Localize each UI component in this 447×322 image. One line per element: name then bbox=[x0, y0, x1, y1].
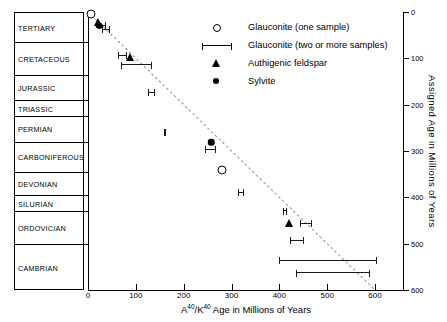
period-row: SILURIAN bbox=[15, 196, 83, 212]
period-label: CRETACEOUS bbox=[18, 55, 70, 64]
left-axis-tick bbox=[82, 211, 88, 212]
period-row: ORDOVICIAN bbox=[15, 212, 83, 244]
period-row: JURASSIC bbox=[15, 76, 83, 101]
left-axis-tick bbox=[82, 100, 88, 101]
left-axis-tick bbox=[82, 195, 88, 196]
legend-label: Glauconite (one sample) bbox=[248, 22, 349, 32]
x-axis-title: A40/K40 Age in Millions of Years bbox=[88, 303, 404, 315]
legend-label: Sylvite bbox=[248, 76, 275, 86]
period-row: TRIASSIC bbox=[15, 101, 83, 117]
y-axis-title-text: Assigned Age in Millions of Years bbox=[427, 75, 438, 228]
right-axis-tick bbox=[403, 105, 409, 106]
period-label: DEVONIAN bbox=[18, 179, 58, 188]
period-label: TERTIARY bbox=[18, 23, 55, 32]
x-axis-tick bbox=[375, 284, 376, 290]
data-point-errorbar bbox=[148, 92, 155, 93]
x-axis-tick-label: 300 bbox=[225, 291, 238, 300]
period-row: TERTIARY bbox=[15, 13, 83, 43]
right-axis-tick bbox=[403, 290, 409, 291]
x-axis-tick bbox=[184, 284, 185, 290]
legend-label: Glauconite (two or more samples) bbox=[248, 40, 388, 50]
y-axis-title: Assigned Age in Millions of Years bbox=[425, 12, 439, 290]
data-point-errorbar bbox=[205, 149, 216, 150]
x-axis-tick bbox=[279, 284, 280, 290]
x-axis-tick bbox=[327, 284, 328, 290]
right-axis-tick-label: 500 bbox=[411, 239, 424, 248]
period-label: TRIASSIC bbox=[18, 104, 53, 113]
period-row: CAMBRIAN bbox=[15, 245, 83, 291]
x-axis-tick-label: 400 bbox=[273, 291, 286, 300]
right-axis-tick-label: 100 bbox=[411, 54, 424, 63]
left-axis-tick bbox=[82, 75, 88, 76]
right-axis-tick bbox=[403, 197, 409, 198]
right-axis-tick-label: 0 bbox=[411, 8, 415, 17]
data-point-filled-triangle bbox=[126, 53, 134, 61]
x-axis-tick-label: 200 bbox=[177, 291, 190, 300]
right-axis-tick bbox=[403, 151, 409, 152]
right-axis-tick bbox=[403, 244, 409, 245]
data-point-open-circle bbox=[87, 9, 96, 18]
right-axis-tick bbox=[403, 12, 409, 13]
left-axis-tick bbox=[82, 244, 88, 245]
x-axis-tick-label: 100 bbox=[129, 291, 142, 300]
period-label: CARBONIFEROUS bbox=[18, 153, 84, 162]
data-point-errorbar bbox=[279, 260, 377, 261]
data-point-errorbar bbox=[296, 272, 370, 273]
data-point-errorbar bbox=[102, 29, 109, 30]
right-axis-tick bbox=[403, 58, 409, 59]
x-axis-tick bbox=[88, 284, 89, 290]
right-axis-tick-label: 400 bbox=[411, 193, 424, 202]
x-axis-tick-label: 600 bbox=[368, 291, 381, 300]
right-axis-tick-label: 600 bbox=[411, 286, 424, 295]
data-point-filled-triangle bbox=[285, 219, 293, 227]
data-point-errorbar bbox=[238, 192, 245, 193]
data-point-errorbar bbox=[164, 132, 167, 133]
right-axis-tick-label: 200 bbox=[411, 100, 424, 109]
plot-area bbox=[88, 12, 375, 290]
period-row: PERMIAN bbox=[15, 117, 83, 142]
data-point-open-circle bbox=[217, 165, 226, 174]
period-label: SILURIAN bbox=[18, 199, 53, 208]
right-axis-tick-label: 300 bbox=[411, 147, 424, 156]
data-point-errorbar bbox=[290, 240, 304, 241]
x-title-text: Age in Millions of Years bbox=[213, 304, 311, 315]
left-axis-tick bbox=[82, 116, 88, 117]
geologic-period-column: TERTIARYCRETACEOUSJURASSICTRIASSICPERMIA… bbox=[14, 12, 84, 290]
x-axis-tick bbox=[136, 284, 137, 290]
data-point-filled-circle bbox=[208, 139, 215, 146]
chart-figure: TERTIARYCRETACEOUSJURASSICTRIASSICPERMIA… bbox=[0, 0, 447, 322]
period-row: CARBONIFEROUS bbox=[15, 143, 83, 173]
x-title-isotope-k-mass: 40 bbox=[203, 303, 210, 310]
x-title-isotope-a-mass: 40 bbox=[187, 303, 194, 310]
left-axis-tick bbox=[82, 42, 88, 43]
data-point-errorbar bbox=[300, 223, 312, 224]
data-point-filled-circle bbox=[96, 23, 103, 30]
period-row: DEVONIAN bbox=[15, 173, 83, 196]
x-axis-tick bbox=[232, 284, 233, 290]
x-axis-tick-label: 500 bbox=[320, 291, 333, 300]
legend-label: Authigenic feldspar bbox=[248, 58, 327, 68]
period-label: CAMBRIAN bbox=[18, 263, 58, 272]
data-point-errorbar bbox=[121, 64, 152, 65]
period-row: CRETACEOUS bbox=[15, 43, 83, 76]
left-axis-tick bbox=[82, 172, 88, 173]
period-label: ORDOVICIAN bbox=[18, 223, 66, 232]
left-axis-tick bbox=[82, 142, 88, 143]
x-axis-tick-label: 0 bbox=[86, 291, 90, 300]
data-point-errorbar bbox=[283, 210, 287, 211]
period-label: JURASSIC bbox=[18, 84, 56, 93]
period-label: PERMIAN bbox=[18, 125, 53, 134]
